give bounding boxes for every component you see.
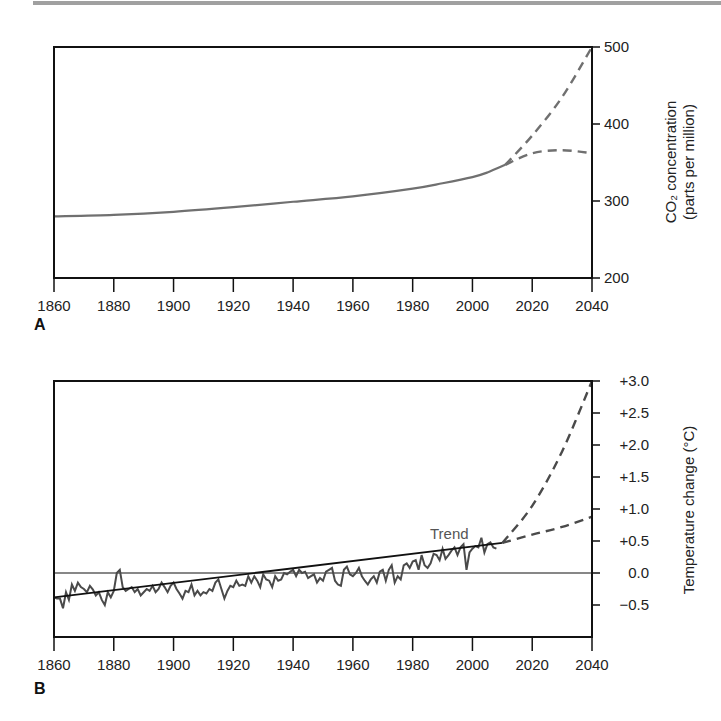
temp-x-tick-label: 2020 — [516, 656, 549, 673]
temp-y-tick-label: −0.5 — [619, 596, 649, 613]
temperature-y-axis-title: Temperature change (°C) — [680, 426, 697, 595]
temp-x-tick-label: 1860 — [37, 656, 70, 673]
temperature-change-chart: 1860188019001920194019601980200020202040… — [0, 0, 721, 721]
temperature-plot-area — [54, 381, 592, 608]
temp-x-tick-label: 2000 — [456, 656, 489, 673]
panel-label-b: B — [34, 680, 46, 697]
temp-x-tick-label: 1880 — [97, 656, 130, 673]
temp-x-tick-label: 1980 — [396, 656, 429, 673]
temp-y-tick-label: +2.5 — [619, 404, 649, 421]
temp-y-tick-label: +1.0 — [619, 500, 649, 517]
temp-series-3 — [502, 517, 592, 543]
temp-x-tick-label: 1920 — [217, 656, 250, 673]
temp-x-tick-label: 1900 — [157, 656, 190, 673]
temp-frame — [54, 381, 592, 637]
trend-annotation: Trend — [430, 525, 469, 542]
temp-y-tick-label: +2.0 — [619, 436, 649, 453]
temp-x-tick-label: 1940 — [276, 656, 309, 673]
temp-series-1 — [54, 543, 502, 597]
temp-y-tick-label: +0.5 — [619, 532, 649, 549]
temperature-axes: 1860188019001920194019601980200020202040… — [37, 372, 649, 673]
temp-x-tick-label: 2040 — [575, 656, 608, 673]
temp-series-2 — [502, 381, 592, 543]
temp-y-tick-label: 0.0 — [628, 564, 649, 581]
temp-y-tick-label: +1.5 — [619, 468, 649, 485]
temp-y-tick-label: +3.0 — [619, 372, 649, 389]
temp-x-tick-label: 1960 — [336, 656, 369, 673]
